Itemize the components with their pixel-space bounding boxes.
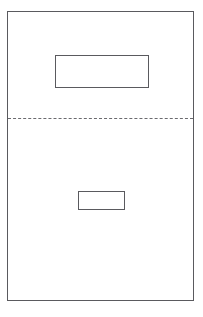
lower-rectangle-label bbox=[79, 192, 124, 209]
upper-rectangle[interactable] bbox=[55, 55, 149, 88]
dashed-divider-line bbox=[8, 118, 193, 119]
lower-rectangle[interactable] bbox=[78, 191, 125, 210]
diagram-canvas bbox=[0, 0, 203, 317]
page-border bbox=[7, 11, 194, 301]
upper-rectangle-label bbox=[56, 56, 148, 87]
